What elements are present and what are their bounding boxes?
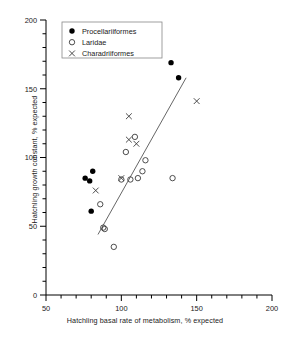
- plot-area: 50100150200050100150200 Procellariiforme…: [0, 0, 290, 341]
- data-point: [134, 141, 140, 147]
- data-point: [140, 169, 145, 174]
- data-point: [89, 208, 94, 213]
- data-points: [82, 60, 199, 250]
- trend-line: [98, 78, 186, 235]
- x-axis-title: Hatchling basal rate of metabolism, % ex…: [0, 316, 290, 325]
- data-point: [168, 60, 173, 65]
- data-point: [90, 169, 95, 174]
- x-tick-label: 200: [266, 304, 278, 313]
- y-tick-label: 200: [25, 16, 37, 25]
- data-point: [176, 75, 181, 80]
- scatter-chart-figure: 50100150200050100150200 Procellariiforme…: [0, 0, 290, 341]
- data-point: [143, 158, 148, 163]
- data-point: [194, 98, 200, 104]
- data-point: [135, 175, 140, 180]
- data-point: [170, 175, 175, 180]
- data-point: [111, 244, 116, 249]
- legend-label: Procellariiformes: [82, 27, 137, 36]
- data-point: [82, 175, 87, 180]
- series-laridae: [98, 134, 176, 249]
- legend-label: Laridae: [82, 38, 106, 47]
- series-charadriiformes: [93, 98, 200, 193]
- data-point: [123, 149, 128, 154]
- data-point: [126, 113, 132, 119]
- data-point: [93, 188, 99, 194]
- x-tick-label: 100: [115, 304, 127, 313]
- legend-marker-filled-circle: [69, 28, 74, 33]
- y-axis-title: Hatchling growth constant, % expected: [30, 40, 39, 280]
- x-tick-label: 50: [42, 304, 50, 313]
- data-point: [132, 134, 137, 139]
- y-tick-label: 0: [33, 291, 37, 300]
- x-tick-label: 150: [190, 304, 202, 313]
- data-point: [98, 202, 103, 207]
- axis-group: 50100150200050100150200: [25, 16, 279, 313]
- legend-label: Charadriiformes: [82, 49, 134, 58]
- data-point: [87, 178, 92, 183]
- data-point: [102, 226, 107, 231]
- data-point: [126, 137, 132, 143]
- chart-legend: ProcellariiformesLaridaeCharadriiformes: [62, 22, 162, 58]
